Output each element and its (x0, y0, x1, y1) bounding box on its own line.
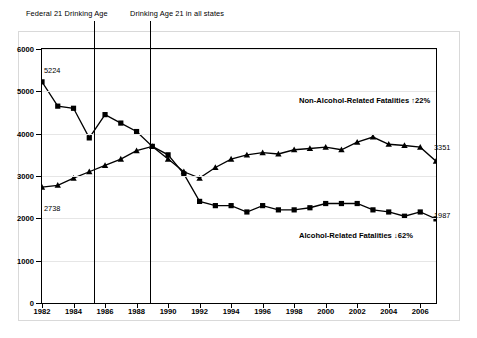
point-label-alcohol-2007: 1987 (434, 211, 450, 220)
x-tick-mark-1992 (200, 304, 201, 308)
y-tick-label-1000: 1000 (0, 256, 34, 265)
data-point-1993 (213, 203, 218, 208)
gridline-3000 (42, 176, 436, 177)
plot-area (41, 48, 437, 304)
data-point-2004 (386, 209, 391, 214)
y-tick-mark-1000 (36, 261, 41, 262)
data-point-1984 (71, 106, 76, 111)
gridline-1000 (42, 261, 436, 262)
x-tick-mark-1986 (105, 304, 106, 308)
x-tick-mark-1982 (42, 304, 43, 308)
x-tick-mark-1990 (168, 304, 169, 308)
data-point-1983 (55, 104, 60, 109)
event-annotation-label-drinking-age-21-all-states: Drinking Age 21 in all states (130, 9, 224, 18)
y-tick-label-2000: 2000 (0, 214, 34, 223)
y-tick-mark-2000 (36, 218, 41, 219)
x-tick-mark-2000 (326, 304, 327, 308)
point-label-alcohol-1982: 5224 (44, 66, 60, 75)
data-point-1986 (102, 112, 107, 117)
data-point-1985 (87, 135, 92, 140)
x-tick-mark-1984 (74, 304, 75, 308)
event-annotation-label-federal-21-drinking-age: Federal 21 Drinking Age (26, 9, 108, 18)
series-non-alcohol-related (42, 134, 436, 190)
x-tick-mark-1998 (294, 304, 295, 308)
y-tick-mark-4000 (36, 134, 41, 135)
gridline-4000 (42, 134, 436, 135)
data-point-1996 (260, 203, 265, 208)
data-point-2000 (323, 201, 328, 206)
data-point-1987 (118, 156, 124, 162)
data-point-1997 (276, 207, 281, 212)
data-point-1992 (197, 199, 202, 204)
data-point-2003 (370, 134, 376, 140)
y-tick-mark-5000 (36, 91, 41, 92)
data-point-1993 (212, 164, 218, 170)
point-label-non-alcohol-2007: 3351 (434, 143, 450, 152)
data-point-1998 (292, 207, 297, 212)
data-point-1982 (42, 79, 45, 84)
x-tick-mark-1994 (231, 304, 232, 308)
event-line-1988 (150, 21, 151, 304)
data-point-1987 (118, 120, 123, 125)
x-tick-label-2006: 2006 (400, 307, 440, 316)
data-point-1994 (229, 203, 234, 208)
data-point-2002 (355, 201, 360, 206)
series-line (42, 137, 436, 187)
fatalities-line-chart: Federal 21 Drinking Age Drinking Age 21 … (0, 0, 477, 338)
gridline-5000 (42, 91, 436, 92)
y-tick-mark-3000 (36, 176, 41, 177)
data-point-2001 (339, 201, 344, 206)
data-point-1995 (244, 209, 249, 214)
y-tick-label-4000: 4000 (0, 129, 34, 138)
point-label-non-alcohol-1982: 2738 (44, 204, 60, 213)
y-tick-mark-0 (36, 303, 41, 304)
y-tick-mark-6000 (36, 49, 41, 50)
x-tick-mark-1996 (263, 304, 264, 308)
y-tick-label-6000: 6000 (0, 45, 34, 54)
y-tick-label-3000: 3000 (0, 172, 34, 181)
x-tick-mark-2002 (357, 304, 358, 308)
x-tick-mark-1988 (137, 304, 138, 308)
y-tick-label-5000: 5000 (0, 87, 34, 96)
gridline-6000 (42, 49, 436, 50)
data-point-2006 (418, 209, 423, 214)
x-tick-mark-2006 (420, 304, 421, 308)
data-point-1999 (307, 205, 312, 210)
series-label-alcohol-related: Alcohol-Related Fatalities ↓62% (299, 231, 413, 240)
data-point-2003 (370, 207, 375, 212)
gridline-2000 (42, 218, 436, 219)
x-tick-mark-2004 (389, 304, 390, 308)
series-label-non-alcohol-related: Non-Alcohol-Related Fatalities ↑22% (299, 96, 430, 105)
event-line-1984 (94, 21, 95, 304)
